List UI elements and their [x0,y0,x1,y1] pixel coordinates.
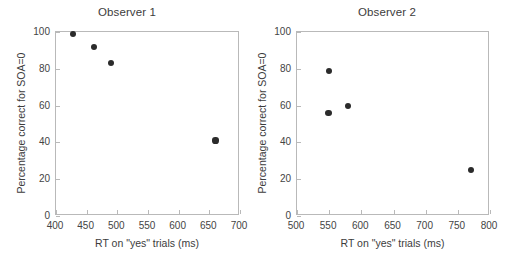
panel-observer-1: Observer 1 RT on "yes" trials (ms) Perce… [0,0,254,269]
data-point [108,60,114,66]
x-axis-tick [240,210,241,214]
x-axis-tick-label: 650 [384,220,401,231]
y-axis-tick-label: 0 [25,210,50,221]
y-axis-tick-label: 80 [266,62,291,73]
y-axis-tick [56,179,60,180]
panel-title-observer-2: Observer 2 [276,6,498,18]
y-axis-tick [297,179,301,180]
y-axis-tick-label: 80 [25,62,50,73]
x-axis-tick [458,210,459,214]
x-axis-tick-label: 450 [77,220,94,231]
x-axis-tick-label: 700 [416,220,433,231]
y-axis-tick [297,69,301,70]
x-axis-tick [361,210,362,214]
x-axis-tick [426,210,427,214]
y-axis-tick-label: 20 [25,173,50,184]
y-axis-tick [56,216,60,217]
x-axis-tick-label: 550 [139,220,156,231]
panel-title-observer-1: Observer 1 [16,6,238,18]
x-axis-tick-label: 600 [169,220,186,231]
data-point [325,110,331,116]
figure-scatter-panels: Observer 1 RT on "yes" trials (ms) Perce… [0,0,509,269]
x-axis-tick [209,210,210,214]
x-axis-tick-label: 750 [448,220,465,231]
y-axis-tick-label: 100 [25,26,50,37]
y-axis-tick [297,216,301,217]
x-axis-tick [148,210,149,214]
y-axis-tick [56,106,60,107]
y-axis-tick-label: 0 [266,210,291,221]
y-axis-tick [56,69,60,70]
data-point [345,103,351,109]
x-axis-tick [179,210,180,214]
y-axis-tick-label: 60 [266,99,291,110]
data-point [212,137,218,143]
x-axis-tick-label: 650 [200,220,217,231]
y-axis-tick [56,142,60,143]
y-axis-tick-label: 100 [266,26,291,37]
plot-area-observer-2 [296,31,489,215]
x-axis-tick-label: 400 [47,220,64,231]
data-point [468,167,474,173]
x-axis-label-observer-1: RT on "yes" trials (ms) [55,237,239,249]
y-axis-tick [297,32,301,33]
x-axis-tick-label: 600 [352,220,369,231]
x-axis-tick [117,210,118,214]
x-axis-tick-label: 800 [481,220,498,231]
y-axis-tick-label: 60 [25,99,50,110]
data-point [70,31,76,37]
x-axis-tick-label: 500 [288,220,305,231]
x-axis-tick [490,210,491,214]
y-axis-tick-label: 40 [266,136,291,147]
y-axis-tick [56,32,60,33]
plot-area-observer-1 [55,31,239,215]
panel-observer-2: Observer 2 RT on "yes" trials (ms) Perce… [254,0,508,269]
data-point [326,68,332,74]
y-axis-tick-label: 40 [25,136,50,147]
x-axis-tick-label: 700 [231,220,248,231]
x-axis-tick [297,210,298,214]
data-point [91,44,97,50]
x-axis-tick [87,210,88,214]
x-axis-tick [56,210,57,214]
x-axis-tick-label: 550 [320,220,337,231]
y-axis-tick [297,106,301,107]
y-axis-tick [297,142,301,143]
y-axis-tick-label: 20 [266,173,291,184]
x-axis-label-observer-2: RT on "yes" trials (ms) [296,237,489,249]
x-axis-tick-label: 500 [108,220,125,231]
x-axis-tick [329,210,330,214]
y-axis-label-observer-2: Percentage correct for SOA=0 [256,31,268,215]
x-axis-tick [394,210,395,214]
y-axis-label-observer-1: Percentage correct for SOA=0 [15,31,27,215]
